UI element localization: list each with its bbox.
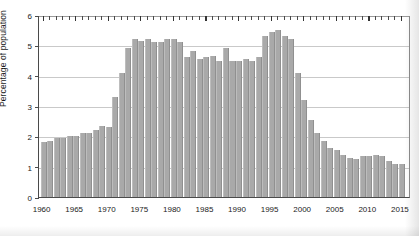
x-axis-tick-major: [336, 16, 337, 21]
bar: [132, 39, 138, 197]
bar: [275, 30, 281, 197]
x-axis-tick-minor: [82, 16, 83, 20]
x-axis-tick-major: [401, 16, 402, 21]
x-axis-tick-major: [43, 16, 44, 21]
x-axis-tick-label: 1960: [33, 205, 51, 214]
x-axis-tick-minor: [49, 16, 50, 20]
chart-figure: Percentage of population 0123456 1960196…: [0, 0, 419, 236]
bar: [340, 155, 346, 197]
bar: [93, 130, 99, 197]
x-axis-tick-minor: [121, 16, 122, 20]
bar: [282, 36, 288, 197]
x-axis-tick-minor: [245, 16, 246, 20]
bar: [321, 141, 327, 197]
bar: [151, 42, 157, 197]
bar: [386, 161, 392, 197]
x-axis-tick-minor: [258, 16, 259, 20]
bar: [125, 48, 131, 197]
x-axis-tick-major: [140, 16, 141, 21]
bar: [86, 133, 92, 197]
bar: [190, 51, 196, 197]
bar: [184, 57, 190, 197]
y-axis-tick-label: 1: [4, 163, 32, 172]
bar: [334, 150, 340, 197]
x-axis-tick-minor: [179, 16, 180, 20]
bar: [236, 61, 242, 198]
x-axis-tick-minor: [394, 16, 395, 20]
y-axis-title: Percentage of population: [0, 10, 8, 107]
bar: [373, 155, 379, 197]
x-axis-tick-minor: [199, 16, 200, 20]
bar: [308, 120, 314, 197]
y-axis-tick-label: 2: [4, 133, 32, 142]
x-axis-tick-minor: [232, 16, 233, 20]
bar: [73, 136, 79, 197]
bar: [229, 61, 235, 198]
bar: [295, 73, 301, 197]
bar: [67, 136, 73, 197]
bar: [353, 159, 359, 197]
bar: [41, 142, 47, 197]
x-axis-tick-minor: [153, 16, 154, 20]
x-axis-tick-minor: [323, 16, 324, 20]
x-axis-tick-minor: [186, 16, 187, 20]
x-axis-tick-minor: [127, 16, 128, 20]
x-axis-tick-minor: [218, 16, 219, 20]
x-axis-tick-minor: [362, 16, 363, 20]
bar: [197, 59, 203, 197]
bar: [314, 133, 320, 197]
x-axis-tick-minor: [310, 16, 311, 20]
x-axis-tick-minor: [62, 16, 63, 20]
bar: [119, 73, 125, 197]
x-axis-tick-minor: [212, 16, 213, 20]
plot-area: [38, 16, 410, 198]
x-axis-tick-minor: [349, 16, 350, 20]
bar: [399, 164, 405, 197]
x-axis-tick-minor: [69, 16, 70, 20]
x-axis-tick-label: 1975: [130, 205, 148, 214]
x-axis-tick-minor: [114, 16, 115, 20]
x-axis-tick-minor: [251, 16, 252, 20]
y-axis-tick-label: 4: [4, 72, 32, 81]
bar: [138, 41, 144, 197]
x-axis-tick-minor: [88, 16, 89, 20]
x-axis-tick-label: 2015: [391, 205, 409, 214]
x-axis-tick-major: [173, 16, 174, 21]
bar: [216, 61, 222, 198]
bar: [379, 156, 385, 197]
bar: [327, 148, 333, 197]
bar: [164, 39, 170, 197]
x-axis-tick-minor: [192, 16, 193, 20]
x-axis-tick-minor: [355, 16, 356, 20]
x-axis-tick-minor: [166, 16, 167, 20]
bar: [80, 133, 86, 197]
x-axis-tick-label: 2000: [293, 205, 311, 214]
x-axis-tick-minor: [388, 16, 389, 20]
y-axis-tick-label: 6: [4, 12, 32, 21]
x-axis-tick-major: [108, 16, 109, 21]
x-axis-tick-label: 1980: [163, 205, 181, 214]
x-axis-tick-minor: [284, 16, 285, 20]
x-axis-tick-minor: [290, 16, 291, 20]
y-axis-tick-label: 5: [4, 42, 32, 51]
x-axis-tick-label: 1985: [196, 205, 214, 214]
bar: [158, 42, 164, 197]
x-axis-tick-minor: [329, 16, 330, 20]
bar: [256, 57, 262, 197]
x-axis-tick-minor: [264, 16, 265, 20]
bar: [203, 57, 209, 197]
bar: [366, 156, 372, 197]
x-axis-tick-minor: [160, 16, 161, 20]
x-axis-tick-minor: [56, 16, 57, 20]
bar-series: [39, 16, 409, 197]
bar: [99, 126, 105, 197]
x-axis-tick-major: [205, 16, 206, 21]
bar: [171, 39, 177, 197]
x-axis-tick-minor: [381, 16, 382, 20]
bar: [243, 59, 249, 197]
x-axis-tick-label: 1990: [228, 205, 246, 214]
x-axis-tick-minor: [375, 16, 376, 20]
bar: [288, 39, 294, 197]
bar: [223, 48, 229, 197]
y-axis-tick-label: 0: [4, 194, 32, 203]
